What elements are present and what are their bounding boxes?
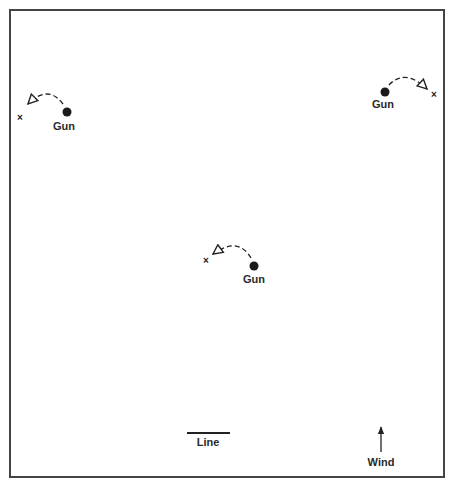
gun-group-center: × Gun bbox=[203, 246, 265, 285]
gun-dot-icon bbox=[250, 262, 259, 271]
gun-group-top-right: × Gun bbox=[372, 77, 437, 110]
gun-label: Gun bbox=[243, 273, 265, 285]
gun-dot-icon bbox=[63, 108, 72, 117]
trajectory-arc bbox=[28, 94, 63, 104]
line-legend: Line bbox=[187, 433, 230, 448]
target-x-icon: × bbox=[203, 255, 209, 266]
gun-dot-icon bbox=[381, 88, 390, 97]
wind-indicator: Wind bbox=[368, 427, 395, 468]
target-x-icon: × bbox=[17, 112, 23, 123]
trajectory-arc bbox=[213, 246, 251, 258]
target-x-icon: × bbox=[431, 89, 437, 100]
diagram-frame bbox=[10, 10, 444, 477]
gun-label: Gun bbox=[372, 98, 394, 110]
artillery-diagram: × Gun × Gun × Gun Line Wind bbox=[0, 0, 454, 483]
wind-label: Wind bbox=[368, 456, 395, 468]
line-label: Line bbox=[197, 436, 220, 448]
trajectory-arc bbox=[389, 77, 427, 89]
gun-group-top-left: × Gun bbox=[17, 94, 75, 132]
gun-label: Gun bbox=[53, 120, 75, 132]
